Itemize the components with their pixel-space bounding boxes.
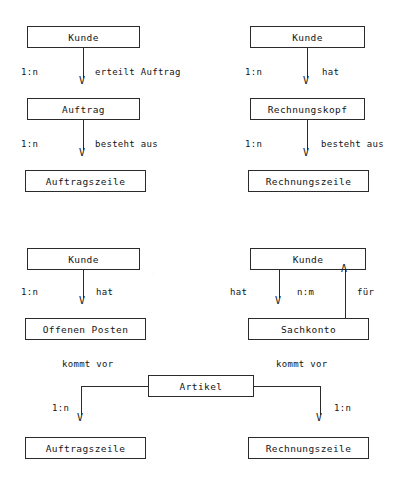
verb-auftrag-auftragszeile: besteht aus	[95, 140, 158, 149]
entity-label: Kunde	[292, 32, 323, 43]
arrow-head-down-icon: V	[275, 296, 281, 306]
entity-box-rechnungszeile-1[interactable]: Rechnungszeile	[248, 170, 369, 192]
entity-box-auftrag[interactable]: Auftrag	[27, 98, 140, 120]
verb-rechnungskopf-rechnungszeile: besteht aus	[321, 140, 384, 149]
cardinality-rechnungskopf-rechnungszeile: 1:n	[245, 140, 262, 149]
connector-artikel-auftragszeile-vertical	[81, 386, 82, 415]
arrow-head-down-icon: V	[79, 148, 85, 158]
cardinality-kunde1-auftrag: 1:n	[21, 68, 38, 77]
connector-kunde4-sachkonto	[279, 270, 280, 298]
entity-box-auftragszeile-2[interactable]: Auftragszeile	[25, 437, 146, 459]
entity-label: Sachkonto	[281, 324, 336, 335]
entity-box-kunde-4[interactable]: Kunde	[250, 248, 366, 270]
arrow-head-up-icon: Λ	[341, 264, 347, 274]
cardinality-kunde4-sachkonto: n:m	[297, 288, 314, 297]
entity-box-auftragszeile-1[interactable]: Auftragszeile	[25, 170, 146, 192]
arrow-head-down-icon: V	[303, 76, 309, 86]
entity-box-kunde-1[interactable]: Kunde	[27, 26, 140, 48]
entity-label: Kunde	[68, 254, 99, 265]
arrow-head-down-icon: V	[79, 296, 85, 306]
connector-artikel-rechnungszeile-vertical	[320, 386, 321, 415]
cardinality-auftrag-auftragszeile: 1:n	[21, 140, 38, 149]
entity-box-kunde-3[interactable]: Kunde	[27, 248, 140, 270]
connector-auftrag-auftragszeile	[83, 120, 84, 150]
entity-label: Rechnungszeile	[266, 176, 352, 187]
cardinality-artikel-rechnungszeile: 1:n	[334, 404, 351, 413]
entity-label: Auftragszeile	[46, 176, 126, 187]
entity-box-sachkonto[interactable]: Sachkonto	[248, 318, 369, 340]
verb-artikel-rechnungszeile: kommt vor	[276, 360, 327, 369]
verb-sachkonto-kunde4: für	[357, 288, 374, 297]
arrow-head-down-icon: V	[77, 413, 83, 423]
entity-label: Rechnungskopf	[268, 104, 348, 115]
verb-artikel-auftragszeile: kommt vor	[62, 360, 113, 369]
cardinality-kunde2-rechnungskopf: 1:n	[245, 68, 262, 77]
entity-label: Kunde	[68, 32, 99, 43]
verb-kunde3-offenenposten: hat	[96, 288, 113, 297]
connector-kunde3-offenenposten	[83, 270, 84, 298]
entity-label: Artikel	[180, 381, 223, 392]
er-diagram-canvas: Kunde V 1:n erteilt Auftrag Auftrag V 1:…	[0, 0, 403, 481]
entity-label: Kunde	[293, 254, 324, 265]
entity-box-rechnungskopf[interactable]: Rechnungskopf	[250, 98, 365, 120]
connector-artikel-rechnungszeile-horizontal	[254, 386, 321, 387]
verb-kunde4-sachkonto: hat	[230, 288, 247, 297]
entity-label: Auftragszeile	[46, 443, 126, 454]
arrow-head-down-icon: V	[303, 148, 309, 158]
arrow-head-down-icon: V	[79, 76, 85, 86]
entity-box-kunde-2[interactable]: Kunde	[250, 26, 365, 48]
entity-label: Auftrag	[62, 104, 105, 115]
entity-label: Offenen Posten	[43, 324, 129, 335]
verb-kunde2-rechnungskopf: hat	[322, 68, 339, 77]
connector-kunde1-auftrag	[83, 48, 84, 78]
connector-kunde2-rechnungskopf	[307, 48, 308, 78]
verb-kunde1-auftrag: erteilt Auftrag	[95, 68, 181, 77]
arrow-head-down-icon: V	[316, 413, 322, 423]
entity-box-offenen-posten[interactable]: Offenen Posten	[25, 318, 146, 340]
connector-sachkonto-kunde4	[345, 270, 346, 318]
entity-box-rechnungszeile-2[interactable]: Rechnungszeile	[248, 437, 369, 459]
entity-box-artikel[interactable]: Artikel	[148, 375, 254, 397]
connector-artikel-auftragszeile-horizontal	[81, 386, 148, 387]
cardinality-artikel-auftragszeile: 1:n	[52, 404, 69, 413]
cardinality-kunde3-offenenposten: 1:n	[21, 288, 38, 297]
entity-label: Rechnungszeile	[266, 443, 352, 454]
connector-rechnungskopf-rechnungszeile	[307, 120, 308, 150]
